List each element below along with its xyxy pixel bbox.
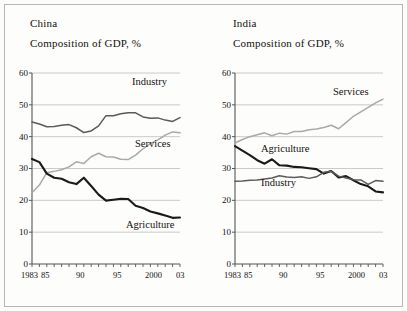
y-tick-india-30: 30 — [211, 163, 231, 173]
y-tick-china-50: 50 — [8, 100, 28, 110]
x-tick-india-95: 95 — [316, 270, 325, 280]
x-tick-china-03: 03 — [176, 270, 185, 280]
figure-root: China Composition of GDP, % 60 50 40 30 … — [0, 0, 407, 311]
y-tick-china-60: 60 — [8, 68, 28, 78]
x-tick-china-95: 95 — [113, 270, 122, 280]
y-tick-india-40: 40 — [211, 132, 231, 142]
series-line-industry — [32, 113, 180, 133]
plot-area-china — [32, 73, 180, 264]
y-tick-india-60: 60 — [211, 68, 231, 78]
x-tick-india-1983: 1983 — [224, 270, 241, 280]
y-tick-china-30: 30 — [8, 163, 28, 173]
series-label-india-services: Services — [333, 86, 369, 97]
series-line-agriculture — [32, 159, 180, 218]
x-tick-india-2000: 2000 — [348, 270, 365, 280]
x-tick-india-03: 03 — [379, 270, 388, 280]
chart-panel-china: China Composition of GDP, % 60 50 40 30 … — [0, 0, 203, 311]
x-tick-china-2000: 2000 — [145, 270, 162, 280]
x-tick-china-90: 90 — [76, 270, 85, 280]
series-line-industry — [235, 171, 383, 184]
x-tick-india-85: 85 — [244, 270, 253, 280]
y-tick-china-0: 0 — [8, 259, 28, 269]
chart-panel-india: India Composition of GDP, % 60 50 40 30 … — [203, 0, 406, 311]
panel-title-china: China — [30, 17, 57, 29]
line-chart-india — [235, 73, 383, 264]
x-tick-china-1983: 1983 — [21, 270, 38, 280]
panel-title-india: India — [233, 17, 257, 29]
y-tick-india-0: 0 — [211, 259, 231, 269]
y-tick-india-20: 20 — [211, 195, 231, 205]
series-label-china-industry: Industry — [132, 76, 167, 87]
series-label-china-services: Services — [135, 138, 171, 149]
series-label-india-industry: Industry — [261, 177, 296, 188]
panel-subtitle-china: Composition of GDP, % — [30, 37, 141, 49]
x-tick-india-90: 90 — [279, 270, 288, 280]
plot-area-india — [235, 73, 383, 264]
y-tick-china-20: 20 — [8, 195, 28, 205]
series-label-china-agriculture: Agriculture — [126, 219, 174, 230]
series-label-india-agriculture: Agriculture — [261, 143, 309, 154]
x-tick-china-85: 85 — [41, 270, 50, 280]
y-tick-china-40: 40 — [8, 132, 28, 142]
y-tick-india-50: 50 — [211, 100, 231, 110]
y-tick-china-10: 10 — [8, 227, 28, 237]
line-chart-china — [32, 73, 180, 264]
y-tick-india-10: 10 — [211, 227, 231, 237]
panel-subtitle-india: Composition of GDP, % — [233, 37, 344, 49]
